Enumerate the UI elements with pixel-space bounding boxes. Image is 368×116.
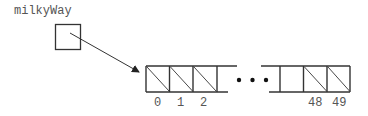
index-label-1: 1 xyxy=(177,97,184,109)
cell-48-null-slash xyxy=(305,67,327,91)
reference-arrow xyxy=(70,33,139,72)
array-reference-diagram: milkyWay xyxy=(0,0,368,116)
array-right-segment xyxy=(261,66,350,92)
index-label-0: 0 xyxy=(154,97,161,109)
index-label-48: 48 xyxy=(308,97,322,109)
cell-0-null-slash xyxy=(147,67,169,91)
cell-49-null-slash xyxy=(328,67,350,91)
index-label-49: 49 xyxy=(332,97,346,109)
null-slash-cells-left xyxy=(147,67,216,91)
array-left-segment xyxy=(146,66,237,92)
ellipsis-dots xyxy=(237,78,268,82)
cell-2-null-slash xyxy=(194,67,216,91)
index-label-2: 2 xyxy=(200,97,207,109)
cell-1-null-slash xyxy=(171,67,193,91)
